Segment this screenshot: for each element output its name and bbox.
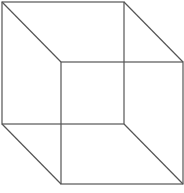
edge-top-right [124,2,183,62]
edge-top-left [2,2,61,62]
edge-bottom-right [124,124,183,184]
cube-drawing [0,0,184,193]
cube-diagram [0,0,184,193]
edge-bottom-left [2,124,61,184]
